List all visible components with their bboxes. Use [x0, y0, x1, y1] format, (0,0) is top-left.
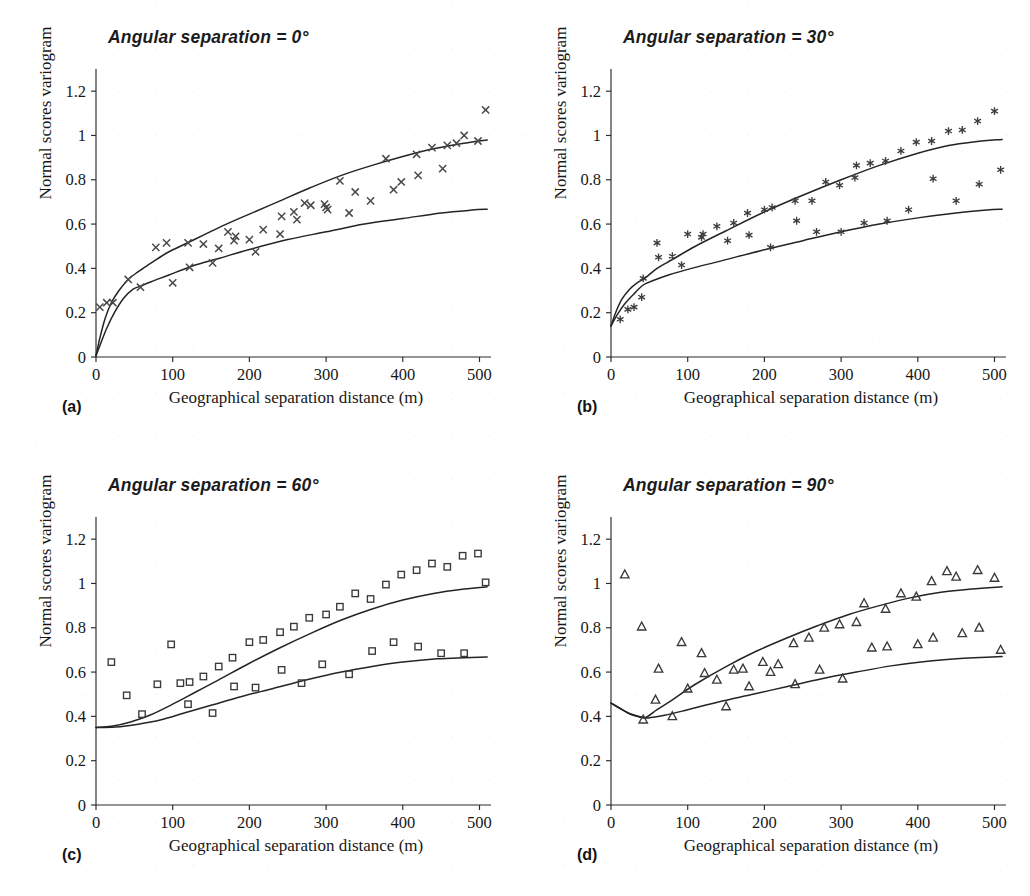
x-axis-ticks: 0100200300400500 — [607, 805, 1007, 832]
y-tick-label: 0.2 — [65, 303, 86, 322]
data-point-marker — [459, 553, 465, 559]
data-point-marker — [200, 240, 207, 247]
data-point-marker — [928, 137, 935, 145]
data-point-marker — [678, 261, 685, 269]
data-point-marker — [945, 127, 952, 135]
data-point-marker — [453, 140, 460, 147]
data-point-marker — [898, 147, 905, 155]
x-tick-label: 300 — [829, 365, 854, 384]
data-point-marker — [739, 664, 747, 672]
data-point-marker — [883, 642, 891, 650]
y-tick-label: 0.8 — [580, 618, 601, 637]
panel-d: Angular separation = 90°Normal scores va… — [515, 448, 1030, 896]
axes — [611, 517, 1006, 805]
data-point-marker — [774, 660, 782, 668]
x-tick-label: 500 — [467, 365, 492, 384]
data-point-marker — [367, 596, 373, 602]
data-point-marker — [654, 664, 662, 672]
data-point-marker — [184, 239, 191, 246]
x-axis-ticks: 0100200300400500 — [607, 357, 1007, 384]
data-point-marker — [367, 197, 374, 204]
data-point-marker — [809, 197, 816, 205]
data-point-marker — [852, 618, 860, 626]
x-tick-label: 100 — [160, 813, 185, 832]
x-tick-label: 0 — [607, 365, 615, 384]
data-point-marker — [154, 681, 160, 687]
y-tick-label: 1.2 — [580, 82, 601, 101]
data-point-marker — [246, 236, 253, 243]
data-point-marker — [868, 643, 876, 651]
x-tick-label: 300 — [829, 813, 854, 832]
y-tick-label: 0.4 — [65, 707, 86, 726]
data-point-marker — [766, 667, 774, 675]
y-axis-ticks: 00.20.40.60.811.2 — [65, 82, 96, 367]
data-point-marker — [684, 230, 691, 238]
y-axis-ticks: 00.20.40.60.811.2 — [65, 530, 96, 815]
y-tick-label: 0 — [78, 348, 86, 367]
x-tick-label: 300 — [314, 813, 339, 832]
y-tick-label: 0 — [78, 796, 86, 815]
data-point-marker — [278, 667, 284, 673]
data-point-marker — [307, 202, 314, 209]
panel-b: Angular separation = 30°Normal scores va… — [515, 0, 1030, 448]
data-points — [621, 566, 1005, 723]
data-point-marker — [744, 209, 751, 217]
y-tick-label: 0.8 — [580, 170, 601, 189]
data-point-marker — [860, 599, 868, 607]
data-point-marker — [654, 239, 661, 247]
model-curve-upper-model — [96, 587, 487, 728]
data-point-marker — [930, 175, 937, 183]
data-point-marker — [853, 161, 860, 169]
x-tick-label: 200 — [752, 813, 777, 832]
data-point-marker — [637, 622, 645, 630]
y-tick-label: 0.2 — [580, 751, 601, 770]
data-point-marker — [413, 151, 420, 158]
data-point-marker — [697, 649, 705, 657]
data-point-marker — [793, 217, 800, 225]
data-point-marker — [836, 181, 843, 189]
data-point-marker — [260, 637, 266, 643]
data-point-marker — [700, 669, 708, 677]
data-point-marker — [413, 567, 419, 573]
plot-area: 00.20.40.60.811.20100200300400500 — [515, 448, 1030, 896]
x-tick-label: 200 — [237, 365, 262, 384]
data-point-marker — [398, 178, 405, 185]
data-point-marker — [444, 564, 450, 570]
data-points — [108, 550, 489, 717]
data-point-marker — [215, 245, 222, 252]
data-point-marker — [624, 305, 631, 313]
data-point-marker — [246, 639, 252, 645]
data-point-marker — [108, 659, 114, 665]
y-tick-label: 1 — [78, 574, 86, 593]
data-point-marker — [976, 180, 983, 188]
y-tick-label: 0.4 — [580, 259, 601, 278]
data-point-marker — [722, 702, 730, 710]
x-tick-label: 500 — [467, 813, 492, 832]
model-curve-lower-model — [611, 209, 1002, 326]
x-axis-ticks: 0100200300400500 — [92, 805, 492, 832]
data-point-marker — [231, 683, 237, 689]
plot-area: 00.20.40.60.811.20100200300400500 — [515, 0, 1030, 448]
y-tick-label: 0.6 — [65, 215, 86, 234]
data-point-marker — [439, 165, 446, 172]
axes — [611, 69, 1006, 357]
y-tick-label: 1.2 — [65, 530, 86, 549]
data-point-marker — [209, 710, 215, 716]
model-curve-lower-model — [611, 657, 1002, 718]
x-tick-label: 500 — [982, 813, 1007, 832]
data-point-marker — [959, 126, 966, 134]
panel-a: Angular separation = 0°Normal scores var… — [0, 0, 515, 448]
data-point-marker — [185, 701, 191, 707]
data-point-marker — [200, 673, 206, 679]
y-tick-label: 0 — [593, 348, 601, 367]
data-point-marker — [943, 567, 951, 575]
y-axis-ticks: 00.20.40.60.811.2 — [580, 82, 611, 367]
x-tick-label: 0 — [92, 365, 100, 384]
data-point-marker — [482, 106, 489, 113]
data-point-marker — [415, 643, 421, 649]
x-tick-label: 400 — [390, 813, 415, 832]
data-point-marker — [974, 117, 981, 125]
x-tick-label: 100 — [160, 365, 185, 384]
data-point-marker — [369, 648, 375, 654]
data-point-marker — [651, 695, 659, 703]
